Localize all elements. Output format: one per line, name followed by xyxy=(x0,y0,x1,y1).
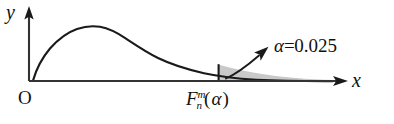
critical-value-argument: α xyxy=(210,88,222,109)
alpha-symbol: α xyxy=(274,35,284,56)
f-distribution-figure: y x O α=0.025 Fmn(α) xyxy=(0,0,394,124)
critical-value-label: Fmn(α) xyxy=(186,89,229,108)
x-axis-label: x xyxy=(352,70,361,90)
origin-label: O xyxy=(18,88,32,107)
critical-value-base: F xyxy=(186,88,198,109)
critical-value-close-paren: ) xyxy=(222,88,228,109)
y-axis-label: y xyxy=(6,2,15,22)
equals-sign: = xyxy=(284,35,294,56)
critical-value-subscript: n xyxy=(197,99,203,111)
alpha-annotation: α=0.025 xyxy=(274,36,337,55)
alpha-numeric-value: 0.025 xyxy=(294,35,337,56)
